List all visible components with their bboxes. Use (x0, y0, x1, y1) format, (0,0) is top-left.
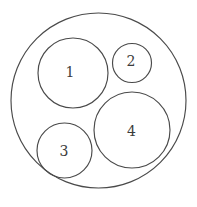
packed-circle-label-1: 1 (66, 64, 75, 80)
packed-circle-group-3: 3 (37, 123, 92, 178)
packed-circle-label-2: 2 (127, 53, 136, 69)
packed-circle-label-4: 4 (127, 123, 136, 139)
circle-packing-figure: 1 2 3 4 (0, 0, 197, 207)
packed-circle-label-3: 3 (60, 143, 69, 159)
packed-circle-group-2: 2 (113, 44, 152, 83)
circle-packing-canvas: 1 2 3 4 (0, 0, 197, 207)
packed-circle-group-1: 1 (38, 38, 108, 108)
outer-boundary-circle (11, 13, 186, 188)
packed-circle-group-4: 4 (94, 92, 170, 168)
